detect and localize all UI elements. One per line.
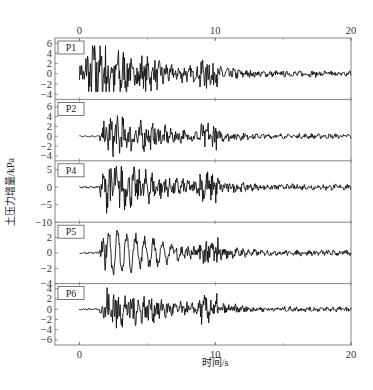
panel-p2: 6420−2−4P2 — [41, 99, 351, 161]
waveform-p5 — [79, 230, 351, 275]
x-tick-label: 0 — [77, 349, 82, 360]
y-tick-label: 5 — [47, 164, 52, 175]
y-tick-label: −4 — [41, 150, 53, 161]
panel-label: P2 — [66, 103, 77, 114]
panel-p1: 6420−2−4P1 — [41, 38, 351, 100]
y-tick-label: −2 — [41, 263, 52, 274]
y-tick-label: −10 — [36, 217, 52, 228]
panel-p5: 20−2−4P5 — [41, 222, 351, 289]
panel-label: P6 — [66, 288, 77, 299]
panel-label: P1 — [66, 42, 77, 53]
y-axis-title: 土压力增量/kPa — [4, 158, 16, 226]
top-x-tick-label: 0 — [77, 25, 82, 36]
top-x-tick-label: 20 — [346, 25, 357, 36]
waveform-p2 — [79, 116, 351, 157]
y-tick-label: −5 — [41, 199, 52, 210]
waveform-p4 — [79, 166, 351, 213]
x-axis-title: 时间/s — [202, 356, 229, 368]
waveform-p1 — [79, 46, 351, 92]
y-tick-label: −4 — [41, 89, 53, 100]
chart: 6420−2−4P16420−2−4P250−5−10P420−2−4P5420… — [0, 0, 373, 390]
x-tick-label: 20 — [346, 349, 357, 360]
y-tick-label: 0 — [47, 247, 52, 258]
panels: 6420−2−4P16420−2−4P250−5−10P420−2−4P5420… — [36, 38, 351, 346]
y-tick-label: 0 — [47, 182, 52, 193]
y-tick-label: −6 — [41, 334, 52, 345]
top-x-tick-label: 10 — [210, 25, 221, 36]
panel-label: P5 — [66, 226, 77, 237]
panel-p4: 50−5−10P4 — [36, 161, 351, 228]
waveform-p6 — [79, 288, 351, 329]
panel-p6: 420−2−4−6P6 — [41, 283, 351, 345]
y-tick-label: 2 — [47, 232, 52, 243]
panel-label: P4 — [66, 165, 77, 176]
